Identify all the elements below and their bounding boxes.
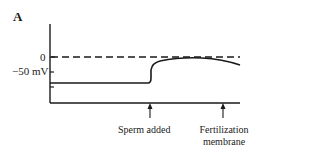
annotation-fertilization-membrane: Fertilization membrane [198,124,250,148]
membrane-potential-trace [50,58,240,83]
annotation-fert-line1: Fertilization [198,124,250,136]
annotation-fert-line2: membrane [198,136,250,148]
sperm-added-arrow-icon [148,103,153,118]
annotation-sperm-added: Sperm added [118,124,171,136]
fertilization-membrane-arrow-icon [221,103,226,118]
